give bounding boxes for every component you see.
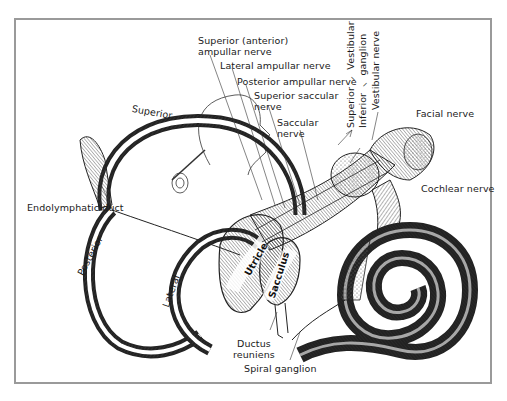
label-lateral-ampullar-nerve: Lateral ampullar nerve — [220, 60, 331, 71]
label-line: Superior (anterior) — [198, 35, 288, 46]
label-line: Saccular — [277, 117, 319, 128]
label-spiral-ganglion: Spiral ganglion — [244, 363, 317, 374]
ductus-reuniens — [275, 303, 288, 338]
label-line: Superior saccular — [254, 90, 339, 101]
label-superior-anterior-ampullar-nerve: Superior (anterior) ampullar nerve — [198, 35, 288, 57]
label-vestibular-ganglion-inferior: Inferior ⸜ ganglion — [357, 34, 368, 128]
superior-semicircular-canal — [104, 120, 300, 215]
label-line: nerve — [254, 101, 339, 112]
label-endolymphatic-duct: Endolymphatic duct — [27, 202, 124, 213]
label-line: Ductus — [233, 338, 275, 349]
label-word: ganglion — [357, 34, 368, 76]
label-cochlear-nerve: Cochlear nerve — [421, 183, 495, 194]
label-ductus-reuniens: Ductus reuniens — [233, 338, 275, 360]
label-vestibular-nerve: Vestibular nerve — [370, 31, 381, 110]
label-facial-nerve: Facial nerve — [416, 108, 474, 119]
label-posterior-ampullar-nerve: Posterior ampullar nerve — [237, 76, 357, 87]
label-word: Superior — [345, 87, 356, 128]
label-superior-saccular-nerve: Superior saccular nerve — [254, 90, 339, 112]
label-word: Inferior — [357, 93, 368, 128]
brace-glyph: ⸝ — [345, 76, 356, 81]
label-line: ampullar nerve — [198, 46, 288, 57]
brace-glyph: ⸜ — [357, 82, 368, 87]
label-vestibular-ganglion-superior: Superior ⸝ Vestibular — [345, 21, 356, 128]
label-saccular-nerve: Saccular nerve — [277, 117, 319, 139]
cochlea — [292, 230, 470, 355]
label-line: reuniens — [233, 349, 275, 360]
label-line: nerve — [277, 128, 319, 139]
label-word: Vestibular — [345, 21, 356, 69]
